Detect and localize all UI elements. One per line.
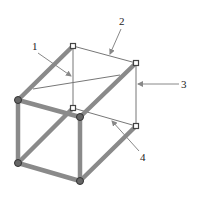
node-back-bottom-right — [134, 124, 139, 129]
node-front-bottom-left — [15, 160, 22, 167]
node-back-bottom-left — [71, 106, 76, 111]
label-4: 4 — [140, 151, 146, 163]
front-bottom-beam — [18, 163, 80, 181]
label-1: 1 — [32, 40, 38, 52]
node-front-top-right — [77, 114, 84, 121]
arrow-2 — [110, 29, 121, 54]
left-top-beam — [18, 46, 73, 100]
node-front-bottom-right — [77, 178, 84, 185]
label-2: 2 — [119, 15, 125, 27]
right-bottom-beam — [80, 126, 136, 181]
node-front-top-left — [15, 97, 22, 104]
node-back-top-right — [134, 61, 139, 66]
node-back-top-left — [71, 44, 76, 49]
back-top-edge — [73, 46, 136, 63]
label-3: 3 — [181, 78, 187, 90]
bottom-diagonal-beam — [18, 108, 73, 163]
right-top-beam — [80, 63, 136, 117]
thick-beams — [18, 46, 136, 181]
truss-frame-diagram: 1 2 3 4 — [0, 0, 198, 197]
top-face-brace — [33, 75, 120, 89]
